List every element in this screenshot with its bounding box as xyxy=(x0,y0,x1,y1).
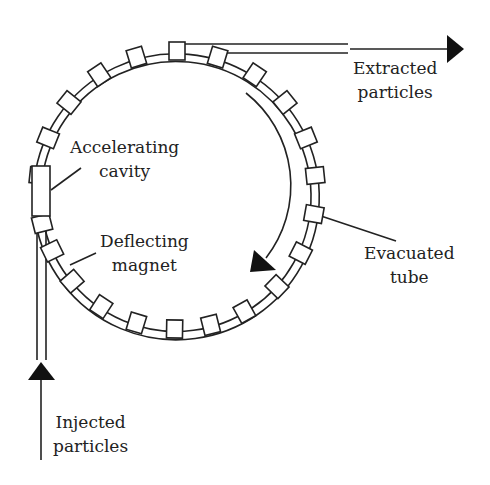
label-injected-particles: Injected particles xyxy=(53,410,128,458)
label-extracted-particles: Extracted particles xyxy=(353,56,437,104)
deflecting-magnet xyxy=(126,46,147,68)
deflecting-magnet xyxy=(126,312,147,334)
deflecting-magnet xyxy=(166,320,182,338)
deflecting-magnet xyxy=(207,46,228,68)
deflecting-magnet xyxy=(88,63,111,87)
deflecting-magnet xyxy=(233,300,256,324)
magnet-leader-line xyxy=(70,253,96,265)
deflecting-magnet xyxy=(60,269,84,293)
deflecting-magnet xyxy=(41,240,64,262)
deflecting-magnet xyxy=(295,127,318,149)
label-accelerating-cavity: Accelerating cavity xyxy=(70,135,179,183)
extracted-arrowhead-icon xyxy=(447,35,464,63)
injected-arrowhead-icon xyxy=(28,362,55,380)
deflecting-magnet xyxy=(37,127,60,149)
tube-leader-line xyxy=(321,216,396,241)
deflecting-magnet xyxy=(90,295,113,319)
deflecting-magnet xyxy=(201,314,221,335)
deflecting-magnet xyxy=(304,205,325,224)
circulation-arc xyxy=(246,93,291,258)
circulation-arrowhead-icon xyxy=(250,250,276,272)
deflecting-magnets xyxy=(29,42,325,338)
deflecting-magnet xyxy=(289,242,312,264)
accelerating-cavity xyxy=(32,166,50,216)
deflecting-magnet xyxy=(169,42,185,60)
deflecting-magnet xyxy=(305,167,325,185)
label-deflecting-magnet: Deflecting magnet xyxy=(100,229,189,277)
synchrotron-diagram: Accelerating cavity Deflecting magnet Ex… xyxy=(0,0,490,485)
label-evacuated-tube: Evacuated tube xyxy=(364,241,455,289)
